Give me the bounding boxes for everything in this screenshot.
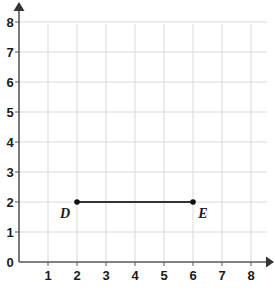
- point-label-e: E: [197, 206, 207, 221]
- x-tick-label: 5: [160, 268, 167, 283]
- y-tick-label: 4: [6, 135, 14, 150]
- y-tick-label: 6: [6, 75, 13, 90]
- point-d: [74, 199, 80, 205]
- point-e: [190, 199, 196, 205]
- x-tick-label: 4: [131, 268, 139, 283]
- point-label-d: D: [59, 206, 70, 221]
- origin-label: 0: [6, 255, 13, 270]
- x-tick-label: 2: [73, 268, 80, 283]
- y-axis-tick-labels: 012345678: [6, 15, 14, 270]
- figure-background: [0, 0, 275, 292]
- coordinate-plane-figure: 12345678 012345678 DE: [0, 0, 275, 292]
- x-tick-label: 6: [189, 268, 196, 283]
- y-tick-label: 2: [6, 195, 13, 210]
- x-tick-label: 8: [247, 268, 254, 283]
- x-tick-label: 3: [102, 268, 109, 283]
- x-tick-label: 1: [44, 268, 51, 283]
- y-tick-label: 1: [6, 225, 13, 240]
- y-tick-label: 8: [6, 15, 13, 30]
- y-tick-label: 7: [6, 45, 13, 60]
- coordinate-plane-svg: 12345678 012345678 DE: [0, 0, 275, 292]
- y-tick-label: 5: [6, 105, 13, 120]
- x-tick-label: 7: [218, 268, 225, 283]
- y-tick-label: 3: [6, 165, 13, 180]
